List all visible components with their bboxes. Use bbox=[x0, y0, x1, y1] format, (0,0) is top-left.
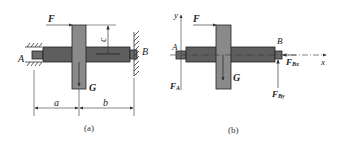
figure-a: F A B G c a b (a) bbox=[17, 13, 148, 133]
label-weight-g: G bbox=[233, 72, 241, 83]
label-reaction-bx: FBx bbox=[285, 57, 299, 67]
label-dim-a: a bbox=[54, 97, 59, 108]
shaft bbox=[43, 47, 130, 62]
label-support-b: B bbox=[142, 46, 148, 57]
label-support-a: A bbox=[17, 53, 25, 64]
label-dim-c: c bbox=[97, 37, 108, 42]
label-reaction-by: FBy bbox=[271, 89, 285, 99]
label-axis-y: y bbox=[173, 10, 178, 20]
label-weight-g: G bbox=[89, 82, 97, 93]
label-dim-b: b bbox=[103, 97, 108, 108]
figure-b: y F A B x G FA FBx FBy (b) bbox=[169, 10, 326, 135]
shaft-gear-diagram: F A B G c a b (a) y F A B x G bbox=[0, 0, 340, 148]
label-force-f: F bbox=[47, 13, 55, 24]
caption-b: (b) bbox=[228, 125, 239, 135]
label-axis-x: x bbox=[320, 57, 325, 67]
label-point-a: A bbox=[171, 42, 178, 52]
label-reaction-a: FA bbox=[169, 81, 180, 91]
caption-a: (a) bbox=[84, 123, 94, 133]
gear bbox=[216, 25, 231, 89]
label-force-f: F bbox=[192, 13, 200, 24]
label-point-b: B bbox=[277, 36, 283, 46]
journal-a bbox=[32, 51, 43, 59]
